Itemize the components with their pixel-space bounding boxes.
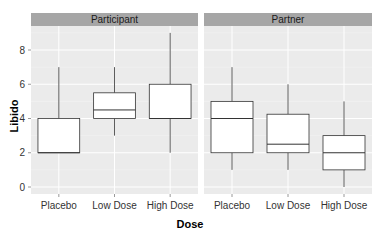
- facet-label: Participant: [91, 14, 138, 25]
- x-tick-label: Placebo: [41, 200, 78, 211]
- facet-label: Partner: [272, 14, 305, 25]
- y-tick-label: 8: [19, 45, 25, 56]
- x-tick-label: Low Dose: [92, 200, 137, 211]
- box: [267, 114, 309, 153]
- box: [149, 84, 191, 118]
- y-tick-label: 0: [19, 182, 25, 193]
- y-tick-label: 6: [19, 79, 25, 90]
- x-axis-title: Dose: [0, 218, 380, 230]
- x-tick-label: Low Dose: [266, 200, 311, 211]
- y-axis-title: Libido: [8, 96, 20, 136]
- box: [94, 93, 136, 119]
- y-tick-label: 2: [19, 147, 25, 158]
- x-tick-label: Placebo: [214, 200, 251, 211]
- box: [38, 119, 80, 153]
- x-tick-label: High Dose: [321, 200, 368, 211]
- box: [211, 101, 253, 152]
- y-tick-label: 4: [19, 113, 25, 124]
- x-tick-label: High Dose: [147, 200, 194, 211]
- boxplot-chart: ParticipantPlaceboLow DoseHigh DosePartn…: [0, 0, 380, 238]
